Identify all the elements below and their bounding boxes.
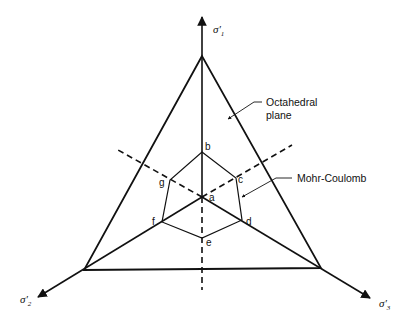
octahedral-label-line1: Octahedral xyxy=(266,96,317,108)
mohr-coulomb-label: Mohr-Coulomb xyxy=(297,172,367,184)
sigma3-label: σ′3 xyxy=(379,297,391,312)
axis-sigma3 xyxy=(202,197,370,298)
point-b-label: b xyxy=(205,141,211,152)
point-g-label: g xyxy=(159,177,165,188)
octahedral-label-line2: plane xyxy=(266,109,292,121)
octahedral-plane-annotation: Octahedral plane xyxy=(228,96,317,121)
point-c-label: c xyxy=(238,174,243,185)
sigma2-label: σ′2 xyxy=(20,293,32,308)
sigma1-label: σ′1 xyxy=(213,23,224,38)
point-e-label: e xyxy=(206,237,212,248)
mohr-coulomb-annotation: Mohr-Coulomb xyxy=(242,172,367,197)
point-f-label: f xyxy=(152,216,155,227)
axis-sigma2 xyxy=(38,197,202,297)
point-d-label: d xyxy=(246,216,252,227)
octahedral-diagram: b c a d e f g Octahedral plane Mohr-Coul… xyxy=(0,0,403,321)
point-a-label: a xyxy=(209,192,215,203)
